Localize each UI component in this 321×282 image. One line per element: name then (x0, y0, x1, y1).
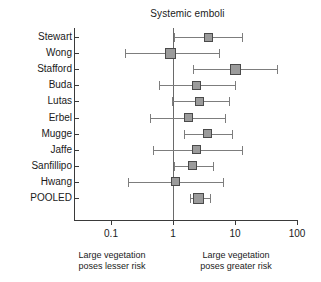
row-tick (74, 198, 79, 199)
confidence-interval-cap-lower (159, 81, 160, 90)
confidence-interval-cap-lower (184, 130, 185, 139)
x-tick-label: 100 (289, 228, 306, 239)
x-axis-spine (74, 220, 298, 221)
confidence-interval-cap-lower (193, 65, 194, 74)
caption-greater-risk: Large vegetation poses greater risk (176, 250, 296, 272)
row-label-stafford: Stafford (0, 64, 72, 74)
confidence-interval-cap-upper (242, 33, 243, 42)
row-label-text: Buda (0, 80, 72, 90)
confidence-interval-cap-lower (172, 97, 173, 106)
row-label-pooled: POOLED (0, 193, 72, 203)
row-label-lutas: Lutas (0, 96, 72, 106)
confidence-interval-cap-lower (128, 178, 129, 187)
row-tick (74, 53, 79, 54)
y-axis-spine (74, 28, 75, 220)
row-tick (74, 118, 79, 119)
row-label-stewart: Stewart (0, 32, 72, 42)
row-tick (74, 37, 79, 38)
confidence-interval-cap-upper (232, 130, 233, 139)
plot-area: StewartWongStaffordBudaLutasErbelMuggeJa… (0, 0, 321, 282)
confidence-interval-cap-lower (174, 162, 175, 171)
row-label-erbel: Erbel (0, 113, 72, 123)
x-tick-label: 10 (229, 228, 240, 239)
point-estimate-marker (193, 193, 204, 204)
row-label-text: Lutas (0, 96, 72, 106)
caption-lesser-risk-line1: Large vegetation (57, 250, 167, 261)
confidence-interval-cap-lower (150, 114, 151, 123)
x-tick (297, 220, 298, 225)
row-tick (74, 150, 79, 151)
x-tick-label: 0.1 (104, 228, 118, 239)
point-estimate-marker (230, 64, 241, 75)
row-label-hwang: Hwang (0, 177, 72, 187)
caption-greater-risk-line2: poses greater risk (176, 261, 296, 272)
row-tick (74, 182, 79, 183)
row-label-text: Erbel (0, 113, 72, 123)
x-tick (111, 220, 112, 225)
row-tick (74, 101, 79, 102)
confidence-interval-cap-upper (277, 65, 278, 74)
row-label-buda: Buda (0, 80, 72, 90)
row-label-text: Stewart (0, 32, 72, 42)
row-label-text: POOLED (0, 193, 72, 203)
x-tick-label: 1 (170, 228, 176, 239)
point-estimate-marker (184, 113, 193, 122)
confidence-interval-cap-lower (174, 33, 175, 42)
row-label-text: Stafford (0, 64, 72, 74)
point-estimate-marker (195, 97, 204, 106)
forest-plot-figure: Systemic emboli StewartWongStaffordBudaL… (0, 0, 321, 282)
row-label-wong: Wong (0, 48, 72, 58)
confidence-interval-cap-lower (153, 146, 154, 155)
row-label-sanfillipo: Sanfillipo (0, 161, 72, 171)
row-label-text: Sanfillipo (0, 161, 72, 171)
x-tick (173, 220, 174, 225)
point-estimate-marker (188, 161, 197, 170)
point-estimate-marker (165, 48, 176, 59)
x-tick (235, 220, 236, 225)
point-estimate-marker (203, 129, 212, 138)
row-label-text: Wong (0, 48, 72, 58)
row-tick (74, 69, 79, 70)
row-label-mugge: Mugge (0, 129, 72, 139)
caption-greater-risk-line1: Large vegetation (176, 250, 296, 261)
confidence-interval-cap-upper (219, 49, 220, 58)
row-label-text: Mugge (0, 129, 72, 139)
caption-lesser-risk: Large vegetation poses lesser risk (57, 250, 167, 272)
confidence-interval-cap-upper (225, 114, 226, 123)
point-estimate-marker (192, 145, 201, 154)
point-estimate-marker (171, 177, 180, 186)
confidence-interval-cap-upper (223, 178, 224, 187)
row-label-text: Jaffe (0, 145, 72, 155)
confidence-interval-cap-upper (235, 81, 236, 90)
confidence-interval-cap-lower (125, 49, 126, 58)
point-estimate-marker (204, 33, 213, 42)
row-label-text: Hwang (0, 177, 72, 187)
confidence-interval-cap-upper (213, 162, 214, 171)
confidence-interval-cap-upper (210, 194, 211, 203)
row-tick (74, 166, 79, 167)
row-tick (74, 85, 79, 86)
row-tick (74, 134, 79, 135)
caption-lesser-risk-line2: poses lesser risk (57, 261, 167, 272)
row-label-jaffe: Jaffe (0, 145, 72, 155)
confidence-interval-cap-upper (242, 146, 243, 155)
confidence-interval-cap-lower (190, 194, 191, 203)
confidence-interval-cap-upper (229, 97, 230, 106)
point-estimate-marker (192, 81, 201, 90)
